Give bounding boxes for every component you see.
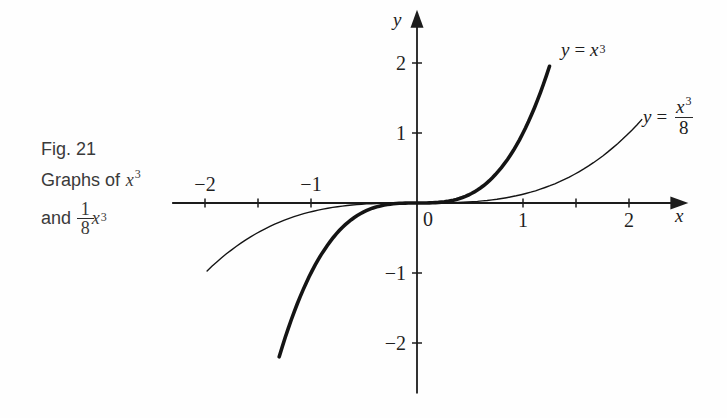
math-var-y: y — [561, 39, 569, 61]
x-tick-label--1: −1 — [300, 173, 321, 195]
x-axis-label: x — [675, 205, 683, 227]
y-tick-label-2: 2 — [396, 52, 406, 74]
math-var-y: y — [643, 106, 651, 128]
y-equals-x-cubed-curve — [279, 66, 549, 357]
y-tick-label-1: 1 — [396, 122, 406, 144]
x-cubed-over-8-fraction: x3 8 — [672, 96, 695, 138]
figure-number: Fig. 21 — [41, 140, 96, 160]
equals-sign: = — [574, 39, 585, 61]
caption-text: Graphs of — [41, 170, 120, 190]
caption-text: and — [41, 209, 71, 229]
figure-number-text: Fig. 21 — [41, 139, 96, 159]
caption-line-3: and 1 8 x3 — [41, 200, 107, 239]
fraction-numerator: x3 — [672, 96, 695, 117]
curve-label-x-cubed-over-8: y= x3 8 — [643, 96, 695, 138]
math-exponent: 3 — [685, 94, 691, 108]
y-equals-x-cubed-over-8-curve — [207, 120, 642, 271]
math-var-x: x — [590, 39, 598, 61]
y-tick-label--1: −1 — [385, 262, 406, 284]
y-axis-label: y — [393, 9, 401, 31]
figure-page: −2−11221−1−20 Fig. 21 Graphs ofx3 and 1 … — [0, 0, 727, 418]
math-exponent: 3 — [135, 167, 141, 181]
y-axis-arrowhead — [411, 10, 424, 28]
caption-line-2: Graphs ofx3 — [41, 169, 141, 191]
x-tick-label--2: −2 — [194, 173, 215, 195]
equals-sign: = — [656, 106, 667, 128]
fraction-denominator: 8 — [675, 117, 693, 138]
origin-label: 0 — [423, 208, 433, 230]
x-tick-label-1: 1 — [518, 209, 528, 231]
math-var-x: x — [126, 170, 134, 190]
math-exponent: 3 — [599, 42, 605, 57]
figure-caption: Fig. 21 Graphs ofx3 and 1 8 x3 — [41, 140, 141, 238]
x-tick-label-2: 2 — [624, 209, 634, 231]
y-tick-label--2: −2 — [385, 332, 406, 354]
math-var-x: x — [676, 96, 684, 117]
math-var-x: x — [92, 209, 100, 229]
math-exponent: 3 — [101, 211, 107, 224]
curve-label-x-cubed: y=x3 — [561, 39, 605, 61]
